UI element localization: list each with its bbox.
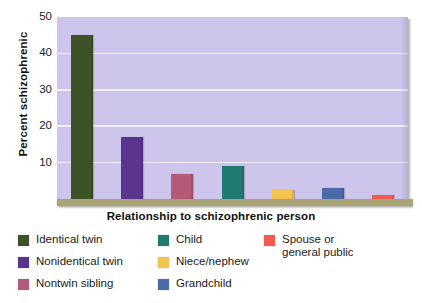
bar-nontwin-sibling — [171, 174, 193, 199]
bar-chart-figure: Percent schizophrenic 1020304050 Relatio… — [0, 0, 422, 303]
y-tick-label-40: 40 — [26, 47, 52, 59]
legend-item-label: Grandchild — [176, 277, 232, 290]
legend-item-label: Identical twin — [36, 233, 102, 246]
legend-swatch-icon — [18, 235, 29, 246]
y-tick-label-10: 10 — [26, 157, 52, 169]
bar-identical-twin — [71, 35, 93, 199]
legend-swatch-icon — [158, 257, 169, 268]
legend-item-label: Spouse or general public — [282, 233, 354, 259]
legend-swatch-icon — [264, 235, 275, 246]
legend-item: Nonidentical twin — [18, 255, 123, 277]
y-tick-label-20: 20 — [26, 120, 52, 132]
legend-column-1: Identical twinNonidentical twinNontwin s… — [18, 233, 123, 299]
legend-swatch-icon — [158, 235, 169, 246]
chart-baseline-floor — [57, 199, 413, 206]
y-tick-label-30: 30 — [26, 84, 52, 96]
legend-item: Child — [158, 233, 249, 255]
legend-item-label: Nontwin sibling — [36, 277, 113, 290]
legend-column-2: ChildNiece/nephewGrandchild — [158, 233, 249, 299]
legend-item: Identical twin — [18, 233, 123, 255]
legend-item-label: Niece/nephew — [176, 255, 249, 268]
legend-item-label: Nonidentical twin — [36, 255, 123, 268]
plot-area — [57, 17, 408, 199]
y-axis-tick-labels: 1020304050 — [22, 0, 52, 210]
plot-right-shading — [401, 17, 408, 199]
legend-swatch-icon — [158, 279, 169, 290]
legend-swatch-icon — [18, 257, 29, 268]
bar-child — [222, 166, 244, 199]
bar-series — [57, 17, 408, 199]
bar-nonidentical-twin — [121, 137, 143, 199]
legend-item: Spouse or general public — [264, 233, 354, 255]
x-axis-title: Relationship to schizophrenic person — [0, 210, 422, 222]
legend-swatch-icon — [18, 279, 29, 290]
legend-item: Grandchild — [158, 277, 249, 299]
legend-item: Niece/nephew — [158, 255, 249, 277]
bar-grandchild — [322, 188, 344, 199]
bar-niece-nephew — [272, 190, 294, 199]
chart-legend: Identical twinNonidentical twinNontwin s… — [18, 233, 422, 295]
plot-area-wrapper — [57, 17, 408, 199]
legend-item: Nontwin sibling — [18, 277, 123, 299]
chart-floor-shadow — [59, 206, 413, 209]
legend-item-label: Child — [176, 233, 202, 246]
legend-column-3: Spouse or general public — [264, 233, 354, 255]
y-tick-label-50: 50 — [26, 11, 52, 23]
